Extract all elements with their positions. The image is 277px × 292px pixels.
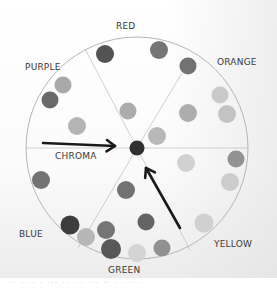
label-yellow: YELLOW (214, 239, 252, 249)
paint-swatch-dot (117, 181, 135, 199)
paint-swatch-dot (120, 103, 137, 120)
caption-text: ·· · ·· · ··· ·· · · ··· ·· · · ·· · (10, 279, 270, 287)
label-orange: ORANGE (217, 57, 257, 67)
paint-swatch-dot (228, 151, 245, 168)
paint-swatch-dot (97, 221, 115, 239)
paint-swatch-dot (150, 41, 168, 59)
paint-swatch-dot (128, 244, 146, 262)
paint-swatch-dot (218, 105, 236, 123)
paint-swatch-dot (148, 127, 166, 145)
paint-swatch-dot (154, 240, 171, 257)
paint-swatch-dot (180, 58, 197, 75)
paint-swatch-dot (96, 45, 114, 63)
paint-swatch-dot (42, 92, 59, 109)
paint-swatch-dot (101, 239, 121, 259)
paint-swatch-dot (77, 228, 95, 246)
label-purple: PURPLE (25, 62, 61, 72)
paint-swatch-dot (138, 214, 155, 231)
paint-swatch-dot (130, 141, 145, 156)
wheel-divider-line (85, 49, 137, 148)
paint-swatch-dot (32, 171, 50, 189)
label-green: GREEN (108, 265, 140, 275)
paint-swatch-dot (212, 87, 229, 104)
paint-swatch-dot (179, 104, 197, 122)
paint-swatch-dot (55, 77, 72, 94)
label-red: RED (116, 21, 135, 31)
label-blue: BLUE (19, 229, 43, 239)
paint-swatch-dot (68, 117, 86, 135)
paint-swatch-dot (221, 173, 239, 191)
label-chroma: CHROMA (55, 151, 97, 161)
paint-swatch-dot (61, 216, 80, 235)
chroma-arrow-horizontal-icon (43, 140, 115, 151)
paint-swatch-dot (195, 214, 214, 233)
paint-swatch-dot (177, 154, 195, 172)
